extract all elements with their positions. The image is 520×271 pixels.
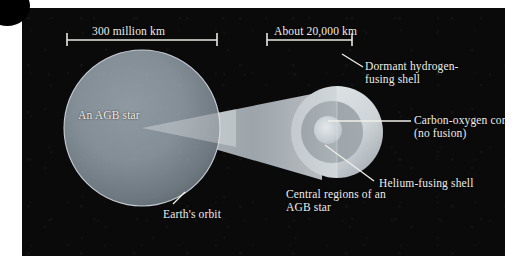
agb-star-label: An AGB star (78, 109, 140, 122)
inset-cutaway-sphere (291, 86, 383, 178)
astronomy-diagram-figure: 300 million km About 20,000 km An AGB st… (0, 0, 520, 271)
scale-bar-left-label: 300 million km (92, 25, 165, 38)
earths-orbit-label: Earth's orbit (163, 208, 221, 221)
diagram-panel: 300 million km About 20,000 km An AGB st… (22, 8, 505, 256)
dormant-hydrogen-shell-label: Dormant hydrogen-fusing shell (365, 60, 481, 86)
central-regions-caption: Central regions of an AGB star (286, 188, 396, 214)
carbon-oxygen-core-region (314, 116, 342, 144)
scale-bar-right-label: About 20,000 km (274, 25, 357, 38)
leader-line-dormant-shell (342, 54, 363, 67)
carbon-oxygen-core-label: Carbon-oxygen core (no fusion) (414, 114, 505, 140)
